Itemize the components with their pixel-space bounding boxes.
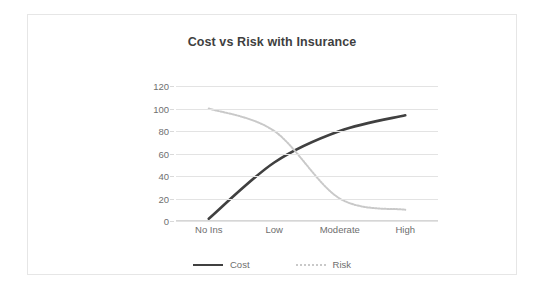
x-axis-tick-label: High bbox=[373, 224, 439, 240]
gridline bbox=[176, 199, 438, 200]
y-axis-tick-label: 80 bbox=[158, 126, 169, 137]
legend-item-cost[interactable]: Cost bbox=[193, 259, 250, 270]
legend-item-risk[interactable]: Risk bbox=[296, 259, 351, 270]
chart-title: Cost vs Risk with Insurance bbox=[28, 35, 516, 49]
y-axis-tick-label: 100 bbox=[153, 103, 169, 114]
y-axis-tick-label: 0 bbox=[164, 216, 169, 227]
y-axis-tick-mark bbox=[170, 154, 174, 155]
y-axis-tick-mark bbox=[170, 199, 174, 200]
y-axis-tick-mark bbox=[170, 86, 174, 87]
y-axis-tick-mark bbox=[170, 131, 174, 132]
plot-area: 020406080100120 bbox=[176, 86, 438, 221]
legend-label: Risk bbox=[333, 259, 351, 270]
legend-label: Cost bbox=[230, 259, 250, 270]
y-axis-tick-mark bbox=[170, 176, 174, 177]
series-line-risk bbox=[209, 109, 406, 210]
y-axis-tick-label: 60 bbox=[158, 148, 169, 159]
y-axis-tick-label: 40 bbox=[158, 171, 169, 182]
gridline bbox=[176, 131, 438, 132]
gridline bbox=[176, 109, 438, 110]
gridline bbox=[176, 86, 438, 87]
x-axis-tick-label: No Ins bbox=[176, 224, 242, 240]
chart-frame: Cost vs Risk with Insurance 020406080100… bbox=[27, 14, 517, 275]
y-axis-tick-mark bbox=[170, 109, 174, 110]
x-axis-labels: No InsLowModerateHigh bbox=[176, 224, 438, 240]
x-axis-tick-label: Low bbox=[242, 224, 308, 240]
chart-legend: CostRisk bbox=[28, 259, 516, 270]
gridline bbox=[176, 176, 438, 177]
gridline bbox=[176, 154, 438, 155]
y-axis-tick-label: 120 bbox=[153, 81, 169, 92]
legend-swatch-icon bbox=[193, 264, 223, 266]
x-axis-tick-label: Moderate bbox=[307, 224, 373, 240]
y-axis-tick-mark bbox=[170, 221, 174, 222]
y-axis-tick-label: 20 bbox=[158, 193, 169, 204]
gridline bbox=[176, 221, 438, 222]
legend-swatch-icon bbox=[296, 264, 326, 266]
